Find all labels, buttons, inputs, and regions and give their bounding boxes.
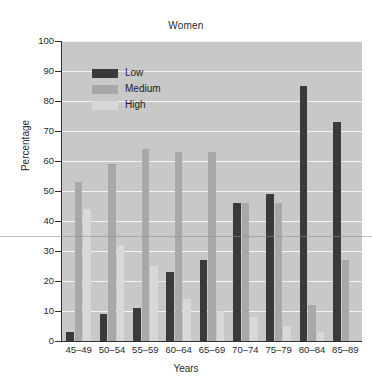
bar-low-1 — [100, 314, 108, 341]
y-tick-mark — [55, 311, 62, 312]
y-tick-label: 40 — [14, 216, 54, 226]
legend-label-low: Low — [125, 68, 143, 78]
legend-swatch-medium-icon — [92, 85, 118, 94]
bar-medium-3 — [175, 152, 183, 341]
y-tick-mark — [55, 281, 62, 282]
legend-swatch-low-icon — [92, 69, 118, 78]
bar-medium-2 — [142, 149, 150, 341]
y-tick-label: 10 — [14, 306, 54, 316]
bar-low-6 — [266, 194, 274, 341]
y-tick-label: 90 — [14, 66, 54, 76]
y-tick-mark — [55, 41, 62, 42]
bar-low-7 — [300, 86, 308, 341]
bar-low-4 — [200, 260, 208, 341]
y-tick-mark — [55, 341, 62, 342]
chart-legend: Low Medium High — [92, 65, 188, 113]
scan-artifact — [0, 236, 372, 237]
legend-item-low: Low — [92, 65, 188, 81]
gridline — [62, 131, 362, 132]
chart-figure: Women Percentage Low Medium High Years 0… — [0, 0, 372, 384]
y-tick-label: 50 — [14, 186, 54, 196]
y-tick-label: 0 — [14, 336, 54, 346]
y-tick-mark — [55, 161, 62, 162]
legend-item-medium: Medium — [92, 81, 188, 97]
x-tick-label: 85–89 — [325, 345, 366, 355]
y-axis-label: Percentage — [20, 96, 31, 196]
x-axis-spine — [61, 341, 362, 342]
y-tick-mark — [55, 71, 62, 72]
y-tick-mark — [55, 101, 62, 102]
bar-low-3 — [166, 272, 174, 341]
bar-high-3 — [183, 299, 191, 341]
bar-high-5 — [250, 317, 258, 341]
y-tick-label: 20 — [14, 276, 54, 286]
bar-high-6 — [283, 326, 291, 341]
bar-high-0 — [83, 209, 91, 341]
bar-medium-1 — [108, 164, 116, 341]
bar-low-0 — [66, 332, 74, 341]
chart-title: Women — [0, 20, 372, 31]
y-tick-label: 30 — [14, 246, 54, 256]
gridline — [62, 41, 362, 42]
y-tick-mark — [55, 251, 62, 252]
legend-swatch-high-icon — [92, 101, 118, 110]
bar-medium-0 — [75, 182, 83, 341]
bar-high-4 — [217, 311, 225, 341]
x-axis-label: Years — [0, 363, 372, 374]
bar-medium-5 — [242, 203, 250, 341]
legend-label-high: High — [125, 100, 146, 110]
y-tick-label: 60 — [14, 156, 54, 166]
bar-medium-7 — [308, 305, 316, 341]
y-tick-label: 80 — [14, 96, 54, 106]
bar-low-8 — [333, 122, 341, 341]
bar-high-7 — [317, 332, 325, 341]
legend-label-medium: Medium — [125, 84, 161, 94]
legend-item-high: High — [92, 97, 188, 113]
bar-medium-8 — [342, 260, 350, 341]
y-tick-mark — [55, 191, 62, 192]
bar-medium-4 — [208, 152, 216, 341]
bar-low-5 — [233, 203, 241, 341]
bar-high-2 — [150, 266, 158, 341]
bar-low-2 — [133, 308, 141, 341]
bar-medium-6 — [275, 203, 283, 341]
y-tick-mark — [55, 131, 62, 132]
y-tick-label: 70 — [14, 126, 54, 136]
bar-high-1 — [117, 245, 125, 341]
y-tick-label: 100 — [14, 36, 54, 46]
y-tick-mark — [55, 221, 62, 222]
